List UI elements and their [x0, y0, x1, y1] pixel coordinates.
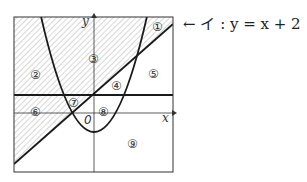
y-axis-arrow-icon [91, 13, 97, 18]
origin-label: 0 [84, 113, 92, 127]
region-1: ① [152, 20, 163, 34]
region-6: ⑥ [30, 105, 41, 119]
y-axis-label: y [82, 14, 89, 28]
region-8: ⑧ [98, 105, 109, 119]
region-4: ④ [111, 79, 122, 93]
region-5: ⑤ [148, 67, 159, 81]
arrow-left-icon: ← [183, 15, 196, 33]
annotation-label: イ : y = x + 2 [200, 15, 300, 33]
x-axis-arrow-icon [172, 110, 177, 116]
line-annotation: ← イ : y = x + 2 [183, 12, 301, 33]
region-3: ③ [88, 52, 99, 66]
x-axis-label: x [162, 111, 169, 125]
region-2: ② [30, 68, 41, 82]
region-9: ⑨ [127, 137, 138, 151]
region-7: ⑦ [68, 96, 79, 110]
